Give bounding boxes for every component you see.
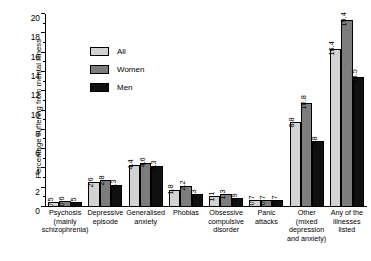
x-category-label-line: listed: [321, 226, 371, 235]
bar-men: 4.3: [151, 166, 162, 207]
bar-men: 0.5: [71, 202, 82, 207]
bar-men: 13.5: [353, 77, 364, 207]
bar-value-label: 0.9: [230, 193, 237, 203]
x-category-label-line: and anxiety): [281, 235, 333, 244]
bar-value-label: 4.4: [127, 159, 134, 169]
x-axis-category-labels: Psychosis(mainlyschizophrenia)Depressive…: [45, 209, 367, 261]
x-category-label-line: anxiety: [120, 218, 172, 227]
bar-all: 8.8: [290, 122, 301, 207]
legend-item-women: Women: [90, 65, 144, 74]
bar-group-bars: 1.11.30.9: [206, 14, 246, 207]
bar-group: 1.11.30.9: [206, 14, 246, 207]
bar-value-label: 1.8: [167, 185, 174, 195]
bar-group-bars: 16.419.413.5: [327, 14, 367, 207]
bar-group-bars: 2.62.82.3: [85, 14, 125, 207]
bar-value-label: 0.5: [46, 197, 53, 207]
legend-label: All: [117, 47, 126, 56]
x-category-label: Any of theillnesseslisted: [321, 209, 371, 235]
bar-women: 10.8: [301, 103, 312, 207]
bar-groups: 0.50.60.52.62.82.34.44.64.31.82.21.31.11…: [45, 14, 367, 207]
bar-men: 2.3: [111, 185, 122, 207]
legend: AllWomenMen: [90, 47, 144, 101]
bar-group-bars: 0.50.60.5: [45, 14, 85, 207]
bar-group-bars: 1.82.21.3: [166, 14, 206, 207]
bar-group: 2.62.82.3: [85, 14, 125, 207]
bar-men: 0.7: [272, 200, 283, 207]
bar-value-label: 1.1: [207, 191, 214, 201]
bar-all: 1.8: [169, 190, 180, 207]
bar-group: 0.50.60.5: [45, 14, 85, 207]
bar-value-label: 4.3: [150, 160, 157, 170]
bar-men: 1.3: [192, 194, 203, 207]
legend-swatch: [90, 83, 109, 92]
bar-group: 4.44.64.3: [126, 14, 166, 207]
bar-value-label: 1.3: [190, 189, 197, 199]
bar-group: 1.82.21.3: [166, 14, 206, 207]
bar-value-label: 2.6: [87, 177, 94, 187]
legend-item-men: Men: [90, 83, 144, 92]
bar-value-label: 10.8: [299, 96, 306, 110]
bar-value-label: 13.5: [351, 70, 358, 84]
bar-value-label: 16.4: [328, 42, 335, 56]
bar-value-label: 19.4: [339, 13, 346, 27]
legend-swatch: [90, 47, 109, 56]
bar-value-label: 4.6: [138, 157, 145, 167]
bar-group: 8.810.86.8: [287, 14, 327, 207]
legend-swatch: [90, 65, 109, 74]
bar-group-bars: 8.810.86.8: [287, 14, 327, 207]
bar-all: 2.6: [88, 182, 99, 207]
bar-value-label: 0.5: [69, 197, 76, 207]
bar-value-label: 0.7: [259, 195, 266, 205]
bar-value-label: 0.7: [270, 195, 277, 205]
bar-men: 6.8: [312, 141, 323, 207]
plot-area: 02468101214161820 0.50.60.52.62.82.34.44…: [45, 14, 367, 207]
bar-value-label: 1.3: [219, 189, 226, 199]
bar-value-label: 2.8: [98, 175, 105, 185]
bar-all: 16.4: [330, 49, 341, 207]
bar-value-label: 2.3: [109, 180, 116, 190]
x-category-label-line: disorder: [200, 226, 252, 235]
bar-group: 0.70.70.7: [246, 14, 286, 207]
legend-label: Women: [117, 65, 144, 74]
bar-group: 16.419.413.5: [327, 14, 367, 207]
bar-value-label: 8.8: [288, 117, 295, 127]
bar-value-label: 6.8: [311, 136, 318, 146]
legend-item-all: All: [90, 47, 144, 56]
bar-chart: Percentage suffering from mental illness…: [0, 0, 371, 261]
bar-women: 19.4: [341, 20, 352, 207]
bar-group-bars: 0.70.70.7: [246, 14, 286, 207]
bar-group-bars: 4.44.64.3: [126, 14, 166, 207]
bar-men: 0.9: [232, 198, 243, 207]
bar-value-label: 2.2: [178, 181, 185, 191]
bar-value-label: 0.7: [248, 195, 255, 205]
bar-value-label: 0.6: [58, 196, 65, 206]
bar-all: 4.4: [129, 165, 140, 207]
x-category-label-line: schizophrenia): [39, 226, 91, 235]
legend-label: Men: [117, 83, 133, 92]
